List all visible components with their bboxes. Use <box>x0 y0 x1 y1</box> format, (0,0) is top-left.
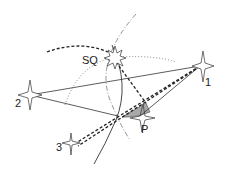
dashed-1-to-3a <box>76 66 200 143</box>
label-star-3: 3 <box>56 141 62 153</box>
dashed-sq-to-p <box>116 62 146 103</box>
dashed-arc-top <box>47 46 108 52</box>
sq-burst-icon <box>104 46 126 69</box>
line-2-to-1 <box>30 66 200 95</box>
dashed-1-to-3b <box>78 69 196 146</box>
line-2-to-p <box>30 95 118 116</box>
label-sq: SQ <box>82 54 98 66</box>
line-1-to-p <box>140 66 200 116</box>
shaded-triangle <box>122 103 150 117</box>
star-3-icon <box>62 133 80 155</box>
label-star-1: 1 <box>205 76 211 88</box>
label-star-2: 2 <box>15 97 21 109</box>
star-2-icon <box>18 80 42 110</box>
label-p: P <box>141 123 148 135</box>
geometry-diagram: SQ 1 2 3 P <box>0 0 227 174</box>
